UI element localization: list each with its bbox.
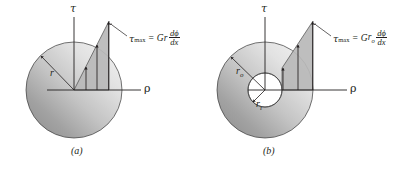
twist-rate-fraction: dϕ dx [376, 29, 387, 48]
equals-sign: = [148, 34, 153, 44]
fraction-numerator: dϕ [376, 29, 387, 38]
panel-hollow-shaft: τ ρ ro ri τmax = Gro dϕ dx (b) [199, 0, 398, 175]
panel-a-drawing [0, 0, 199, 175]
rho-axis-label: ρ [350, 83, 356, 94]
equals-sign: = [352, 34, 357, 44]
radius-symbol: ro [368, 33, 375, 44]
rho-axis-label: ρ [144, 83, 150, 94]
tau-max-formula: τmax = Gr dϕ dx [129, 29, 180, 48]
shear-modulus-symbol: G [361, 34, 368, 44]
inner-radius-subscript: i [260, 104, 262, 112]
tau-subscript: max [338, 37, 349, 44]
panel-solid-shaft: τ ρ r τmax = Gr dϕ dx (a) [0, 0, 199, 175]
fraction-denominator: dx [376, 38, 386, 47]
fraction-numerator: dϕ [169, 29, 180, 38]
radius-symbol: r [164, 34, 168, 44]
panel-caption-a: (a) [71, 145, 83, 156]
twist-rate-fraction: dϕ dx [169, 29, 180, 48]
tau-subscript: max [134, 37, 145, 44]
tau-axis-label: τ [70, 3, 76, 14]
shear-modulus-symbol: G [157, 34, 164, 44]
tau-max-formula: τmax = Gro dϕ dx [333, 29, 387, 48]
radius-label-r: r [50, 68, 54, 78]
inner-radius-label: ri [256, 99, 262, 112]
formula-leader-line [316, 25, 331, 36]
fraction-denominator: dx [169, 38, 179, 47]
figure-root: τ ρ r τmax = Gr dϕ dx (a) [0, 0, 398, 175]
tau-axis-label: τ [261, 3, 267, 14]
panel-b-drawing [199, 0, 398, 175]
radius-subscript: o [371, 37, 374, 44]
panel-caption-b: (b) [263, 145, 275, 156]
outer-radius-subscript: o [240, 71, 244, 79]
formula-leader-line [112, 25, 127, 36]
outer-radius-label: ro [236, 66, 243, 79]
